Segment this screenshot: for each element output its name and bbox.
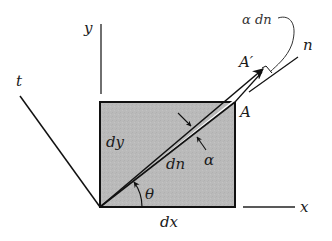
label-x-axis: x bbox=[300, 198, 309, 216]
strain-element-diagram: y t x n A A′ dy dn α θ dx α dn bbox=[0, 0, 332, 241]
displacement-A-to-A-prime bbox=[235, 72, 262, 102]
t-axis-line bbox=[20, 96, 100, 207]
label-alpha-dn: α dn bbox=[242, 12, 272, 27]
label-t-axis: t bbox=[16, 72, 23, 90]
diagram-figure: y t x n A A′ dy dn α θ dx α dn bbox=[0, 0, 332, 241]
label-y-axis: y bbox=[83, 19, 93, 37]
alpha-dn-leader bbox=[270, 17, 294, 72]
label-n-axis: n bbox=[303, 36, 313, 54]
label-dx: dx bbox=[160, 213, 179, 231]
label-alpha: α bbox=[204, 151, 214, 169]
label-dy: dy bbox=[106, 133, 125, 151]
label-point-A-prime: A′ bbox=[237, 53, 254, 71]
label-theta: θ bbox=[145, 185, 154, 203]
label-point-A: A bbox=[238, 103, 251, 121]
label-dn: dn bbox=[166, 155, 185, 173]
